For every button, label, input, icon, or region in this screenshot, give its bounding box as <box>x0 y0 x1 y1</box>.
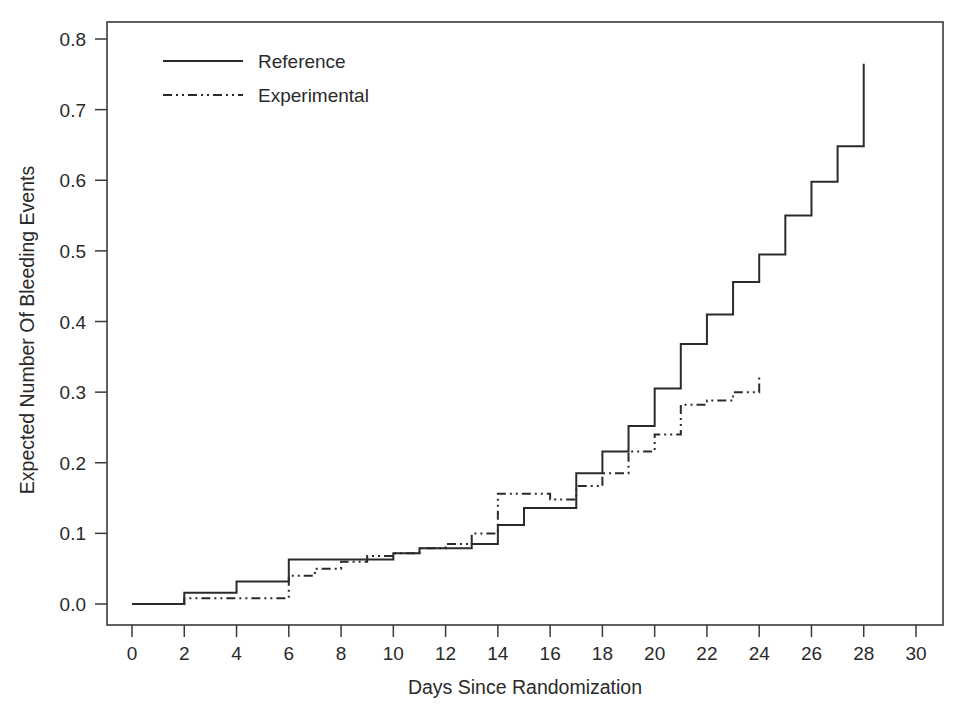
y-tick-label-0.3: 0.3 <box>60 382 86 403</box>
x-tick-label-16: 16 <box>540 643 561 664</box>
x-tick-label-8: 8 <box>336 643 347 664</box>
x-tick-label-0: 0 <box>127 643 138 664</box>
series-line-reference <box>132 64 864 604</box>
legend: Reference Experimental <box>163 51 369 106</box>
x-tick-label-18: 18 <box>592 643 613 664</box>
x-tick-label-4: 4 <box>231 643 242 664</box>
x-tick-label-14: 14 <box>487 643 509 664</box>
x-axis-title: Days Since Randomization <box>408 676 642 698</box>
series-line-experimental <box>132 374 759 604</box>
legend-label-reference: Reference <box>258 51 346 72</box>
y-tick-label-0.8: 0.8 <box>60 29 86 50</box>
x-tick-label-12: 12 <box>435 643 456 664</box>
legend-label-experimental: Experimental <box>258 85 369 106</box>
y-tick-label-0.0: 0.0 <box>60 594 86 615</box>
x-tick-label-30: 30 <box>905 643 926 664</box>
x-axis-tick-labels: 024681012141618202224262830 <box>127 643 927 664</box>
y-tick-label-0.2: 0.2 <box>60 453 86 474</box>
y-tick-label-0.6: 0.6 <box>60 170 86 191</box>
x-tick-label-10: 10 <box>383 643 404 664</box>
plot-frame <box>107 22 943 625</box>
y-axis-tick-labels: 0.00.10.20.30.40.50.60.70.8 <box>60 29 87 615</box>
x-tick-label-24: 24 <box>749 643 771 664</box>
step-plot: 024681012141618202224262830 0.00.10.20.3… <box>0 0 974 723</box>
figure-canvas: 024681012141618202224262830 0.00.10.20.3… <box>0 0 974 723</box>
x-tick-label-20: 20 <box>644 643 665 664</box>
y-tick-label-0.7: 0.7 <box>60 100 86 121</box>
x-tick-label-6: 6 <box>284 643 295 664</box>
y-tick-label-0.1: 0.1 <box>60 523 86 544</box>
y-tick-label-0.4: 0.4 <box>60 312 87 333</box>
y-axis-ticks <box>95 39 107 604</box>
x-tick-label-2: 2 <box>179 643 190 664</box>
y-axis-title: Expected Number Of Bleeding Events <box>16 166 38 495</box>
x-tick-label-28: 28 <box>853 643 874 664</box>
y-tick-label-0.5: 0.5 <box>60 241 86 262</box>
x-axis-ticks <box>132 625 916 637</box>
x-tick-label-22: 22 <box>696 643 717 664</box>
x-tick-label-26: 26 <box>801 643 822 664</box>
